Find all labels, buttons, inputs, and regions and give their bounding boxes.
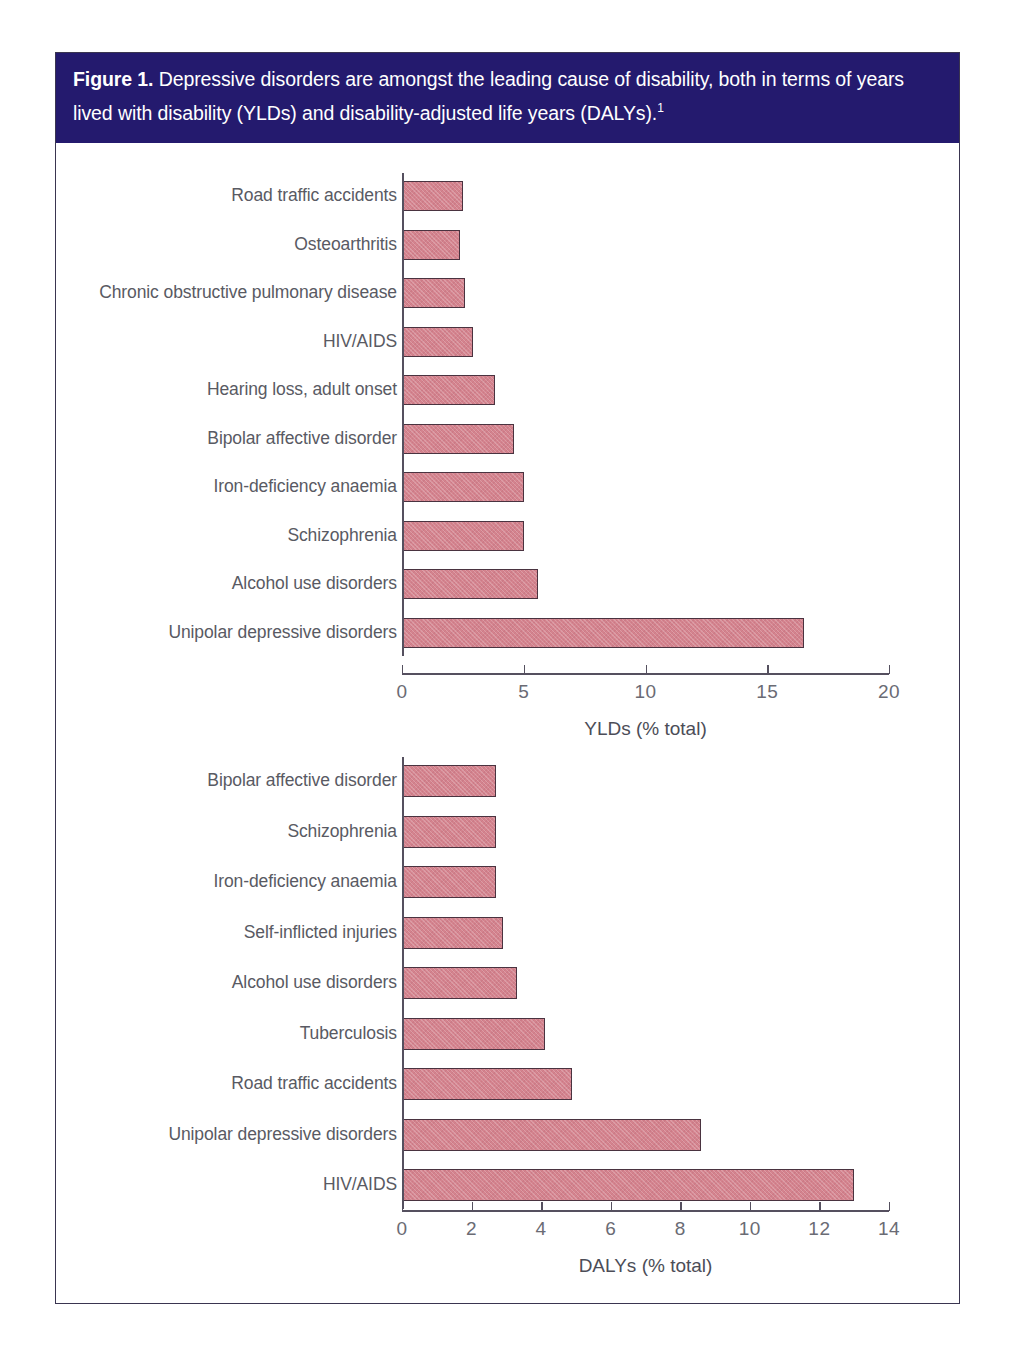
bar-category-label: Alcohol use disorders xyxy=(0,972,397,993)
bar xyxy=(402,917,503,949)
x-axis-tick xyxy=(646,665,647,674)
x-axis-title: DALYs (% total) xyxy=(579,1255,713,1277)
x-axis-tick xyxy=(889,1202,890,1211)
bar xyxy=(402,181,463,211)
bar xyxy=(402,1068,572,1100)
bar-category-label: Osteoarthritis xyxy=(0,234,397,255)
bar xyxy=(402,278,465,308)
y-axis-line xyxy=(402,757,404,1209)
page-top-margin xyxy=(0,0,1015,8)
chart-ylds: Road traffic accidentsOsteoarthritisChro… xyxy=(56,143,959,723)
figure-number-label: Figure 1. xyxy=(73,68,153,90)
x-axis-tick xyxy=(819,1202,820,1211)
bar-category-label: Hearing loss, adult onset xyxy=(0,379,397,400)
bar xyxy=(402,765,496,797)
bar-category-label: Iron-deficiency anaemia xyxy=(0,871,397,892)
bar-category-label: Self-inflicted injuries xyxy=(0,922,397,943)
figure-caption-text: Figure 1. Depressive disorders are among… xyxy=(73,65,943,128)
y-axis-line xyxy=(402,173,404,656)
bar xyxy=(402,472,524,502)
x-axis-tick-label: 4 xyxy=(536,1218,547,1240)
figure-caption-band: Figure 1. Depressive disorders are among… xyxy=(56,53,959,143)
bar xyxy=(402,866,496,898)
x-axis-tick xyxy=(680,1202,681,1211)
bar-category-label: Schizophrenia xyxy=(0,821,397,842)
bar xyxy=(402,327,473,357)
bar xyxy=(402,1119,701,1151)
x-axis-tick-label: 5 xyxy=(518,681,529,703)
x-axis-tick-label: 8 xyxy=(675,1218,686,1240)
x-axis-tick xyxy=(750,1202,751,1211)
x-axis-tick-label: 0 xyxy=(396,1218,407,1240)
x-axis-tick-label: 6 xyxy=(605,1218,616,1240)
bar-category-label: Road traffic accidents xyxy=(0,1073,397,1094)
chart-dalys: Bipolar affective disorderSchizophreniaI… xyxy=(56,723,959,1303)
bar-category-label: Schizophrenia xyxy=(0,525,397,546)
x-axis-tick xyxy=(767,665,768,674)
bar xyxy=(402,1018,545,1050)
bar-category-label: Road traffic accidents xyxy=(0,185,397,206)
bar-category-label: HIV/AIDS xyxy=(0,1174,397,1195)
x-axis-tick-label: 2 xyxy=(466,1218,477,1240)
bar-category-label: Alcohol use disorders xyxy=(0,573,397,594)
x-axis-tick-label: 15 xyxy=(756,681,778,703)
x-axis-tick xyxy=(402,1202,403,1211)
bar-category-label: Bipolar affective disorder xyxy=(0,428,397,449)
bar xyxy=(402,375,495,405)
x-axis-tick-label: 10 xyxy=(634,681,656,703)
figure-frame: Figure 1. Depressive disorders are among… xyxy=(55,52,960,1304)
x-axis-tick xyxy=(889,665,890,674)
bar-category-label: Unipolar depressive disorders xyxy=(0,622,397,643)
x-axis-tick-label: 14 xyxy=(878,1218,900,1240)
x-axis-tick xyxy=(541,1202,542,1211)
bar xyxy=(402,424,514,454)
bar-category-label: Iron-deficiency anaemia xyxy=(0,476,397,497)
bar-category-label: HIV/AIDS xyxy=(0,331,397,352)
bar xyxy=(402,230,460,260)
x-axis-tick xyxy=(611,1202,612,1211)
bar xyxy=(402,618,804,648)
bar-category-label: Chronic obstructive pulmonary disease xyxy=(0,282,397,303)
x-axis-tick-label: 20 xyxy=(878,681,900,703)
bar-category-label: Tuberculosis xyxy=(0,1023,397,1044)
x-axis-tick xyxy=(402,665,403,674)
x-axis-tick-label: 12 xyxy=(808,1218,830,1240)
x-axis-tick-label: 0 xyxy=(396,681,407,703)
x-axis-tick xyxy=(472,1202,473,1211)
bar xyxy=(402,521,524,551)
bar xyxy=(402,1169,854,1201)
x-axis-tick-label: 10 xyxy=(739,1218,761,1240)
bar xyxy=(402,967,517,999)
figure-caption-body: Depressive disorders are amongst the lea… xyxy=(73,68,904,124)
x-axis-tick xyxy=(524,665,525,674)
bar xyxy=(402,569,538,599)
figure-caption-superscript: 1 xyxy=(657,101,664,115)
bar-category-label: Bipolar affective disorder xyxy=(0,770,397,791)
bar-category-label: Unipolar depressive disorders xyxy=(0,1124,397,1145)
x-axis-line xyxy=(402,1210,889,1212)
bar xyxy=(402,816,496,848)
